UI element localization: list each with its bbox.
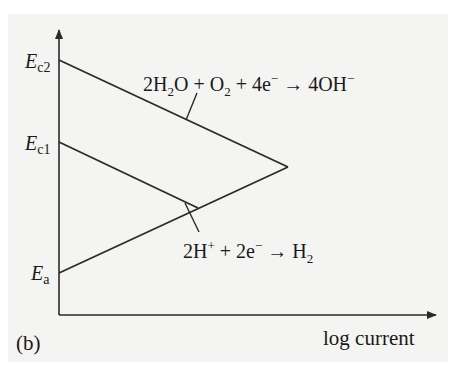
hydrogen-evolution-equation: 2H+ + 2e− → H2 bbox=[183, 238, 313, 266]
label-ec1: Ec1 bbox=[24, 132, 50, 157]
panel-label: (b) bbox=[16, 331, 41, 355]
label-ea: Ea bbox=[30, 262, 50, 287]
oxygen-leader-line bbox=[186, 93, 197, 120]
evans-diagram: Ec2 Ec1 Ea 2H2O + O2 + 4e− → 4OH− 2H+ + … bbox=[0, 0, 460, 370]
oxygen-reduction-equation: 2H2O + O2 + 4e− → 4OH− bbox=[143, 71, 354, 99]
x-axis-label: log current bbox=[323, 326, 415, 350]
label-ec2: Ec2 bbox=[24, 50, 50, 75]
ec1-cathodic-line bbox=[59, 142, 198, 208]
